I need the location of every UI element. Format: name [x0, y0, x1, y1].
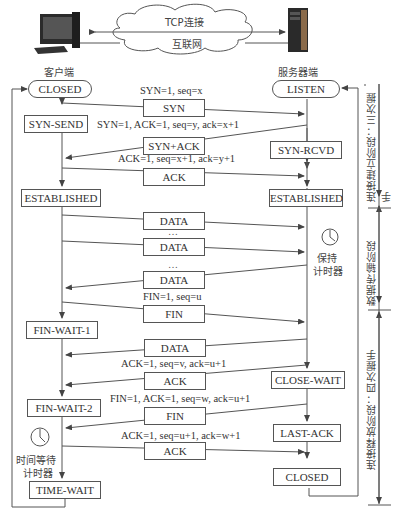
server-tower-icon	[288, 8, 308, 52]
keepalive-timer-label-2: 计时器	[313, 263, 343, 278]
message-ack: ACK	[143, 168, 205, 186]
client-state-syn-send: SYN-SEND	[24, 115, 88, 133]
message-fin: FIN	[143, 305, 205, 323]
client-state-fin-wait-1: FIN-WAIT-1	[26, 321, 98, 339]
fin-ack-label: FIN=1, ACK=1, seq=w, ack=u+1	[110, 393, 250, 404]
ack-label: ACK=1, seq=x+1, ack=y+1	[118, 153, 235, 164]
server-state-closed: CLOSED	[273, 468, 341, 486]
message-data: DATA	[143, 271, 205, 289]
message-fin: FIN	[144, 407, 206, 425]
client-state-closed: CLOSED	[28, 80, 92, 98]
timewait-timer-icon	[31, 428, 49, 446]
cloud-internet-label: 互联网	[172, 36, 202, 51]
ellipsis: …	[168, 259, 178, 270]
message-data: DATA	[144, 339, 206, 357]
server-state-syn-rcvd: SYN-RCVD	[270, 141, 342, 159]
fin-label: FIN=1, seq=u	[143, 291, 202, 302]
client-computer-icon	[34, 12, 80, 54]
client-label: 客户端	[44, 64, 74, 79]
server-label: 服务器端	[278, 64, 318, 79]
client-state-time-wait: TIME-WAIT	[29, 481, 101, 499]
phase-release-label: 连接释放阶段：四次握手	[364, 340, 379, 470]
message-ack: ACK	[144, 442, 206, 460]
message-syn: SYN	[143, 99, 205, 117]
phase-establish-label: 连接建立阶段：三次握手	[364, 90, 394, 202]
client-state-established: ESTABLISHED	[21, 189, 101, 207]
server-state-last-ack: LAST-ACK	[273, 424, 341, 442]
client-state-fin-wait-2: FIN-WAIT-2	[27, 399, 101, 417]
ack-close-label: ACK=1, seq=v, ack=u+1	[121, 358, 226, 369]
server-state-established: ESTABLISHED	[269, 189, 343, 207]
message-data: DATA	[143, 238, 205, 256]
keepalive-timer-icon	[322, 229, 338, 245]
final-ack-label: ACK=1, seq=u+1, ack=w+1	[121, 430, 240, 441]
server-state-listen: LISTEN	[272, 80, 340, 98]
server-state-close-wait: CLOSE-WAIT	[271, 371, 345, 389]
syn-label: SYN=1, seq=x	[140, 85, 203, 96]
syn-ack-label: SYN=1, ACK=1, seq=y, ack=x+1	[97, 119, 239, 130]
cloud-tcp-label: TCP连接	[165, 14, 204, 29]
message-ack: ACK	[144, 372, 206, 390]
ellipsis: …	[168, 226, 178, 237]
phase-transfer-label: 数据传输阶段	[364, 216, 379, 306]
timewait-timer-label-2: 计时器	[23, 465, 53, 480]
